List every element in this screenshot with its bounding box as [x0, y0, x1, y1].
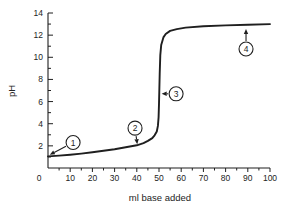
annotation-3: 3 [162, 87, 183, 101]
titration-chart: 010203040506070809010024681012141234 pH … [0, 0, 286, 213]
chart-generated-content: 010203040506070809010024681012141234 [34, 8, 278, 183]
x-tick-label: 30 [110, 173, 120, 183]
x-tick-label: 90 [243, 173, 253, 183]
x-tick-label: 20 [88, 173, 98, 183]
annotation-number: 2 [133, 123, 138, 133]
x-tick-label: 70 [199, 173, 209, 183]
x-tick-label: 100 [263, 173, 277, 183]
annotation-number: 4 [244, 44, 249, 54]
annotation-number: 1 [71, 138, 76, 148]
x-tick-label: 50 [154, 173, 164, 183]
annotation-number: 3 [174, 89, 179, 99]
x-tick-label: 10 [65, 173, 75, 183]
annotation-2: 2 [128, 121, 142, 144]
curve-acid-base-titration-curve [48, 24, 270, 156]
annotation-arrowhead [244, 29, 248, 34]
y-tick-label: 8 [38, 74, 43, 84]
annotation-1: 1 [50, 136, 80, 155]
annotation-arrowhead [134, 139, 138, 144]
y-tick-label: 10 [34, 52, 44, 62]
annotation-arrowhead [162, 92, 167, 96]
y-axis-title: pH [6, 85, 17, 97]
x-tick-label: 0 [37, 173, 42, 183]
annotation-arrow-line [54, 146, 66, 152]
x-tick-label: 40 [132, 173, 142, 183]
y-tick-label: 12 [34, 30, 44, 40]
annotation-4: 4 [239, 29, 253, 56]
x-tick-label: 80 [221, 173, 231, 183]
titration-curve-figure: 010203040506070809010024681012141234 pH … [0, 0, 286, 213]
y-tick-label: 2 [38, 141, 43, 151]
x-tick-label: 60 [176, 173, 186, 183]
x-axis-title: ml base added [129, 192, 191, 203]
y-tick-label: 6 [38, 97, 43, 107]
y-tick-label: 4 [38, 119, 43, 129]
y-tick-label: 14 [34, 8, 44, 18]
